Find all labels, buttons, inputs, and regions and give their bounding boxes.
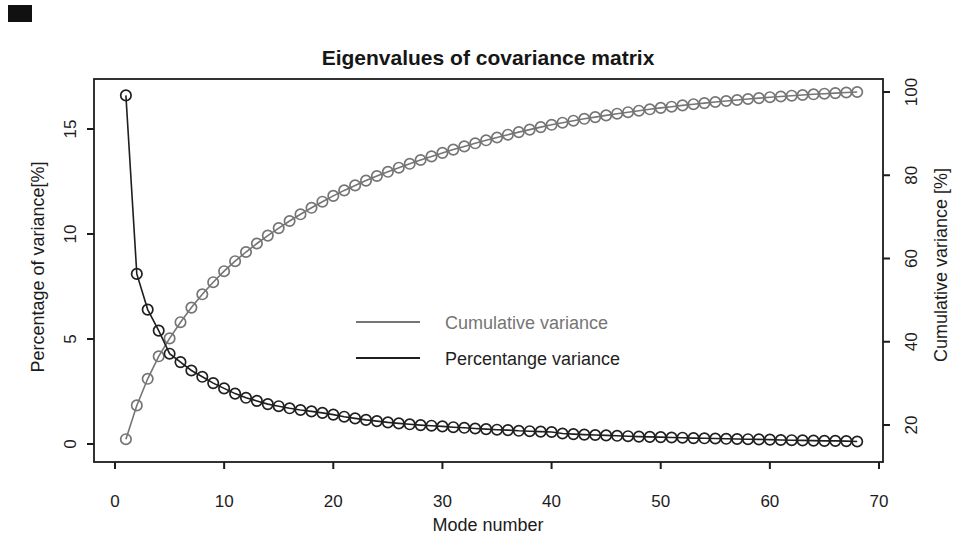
legend-label-percentage: Percentange variance bbox=[445, 349, 620, 369]
figure-canvas: Eigenvalues of covariance matrix 0102030… bbox=[0, 0, 978, 557]
x-tick-label: 0 bbox=[110, 492, 119, 511]
y-left-tick-label: 15 bbox=[61, 120, 80, 139]
y-left-tick-label: 0 bbox=[61, 439, 80, 448]
x-tick-label: 70 bbox=[870, 492, 889, 511]
x-tick-label: 60 bbox=[760, 492, 779, 511]
x-tick-label: 30 bbox=[433, 492, 452, 511]
series-percentange-variance-line bbox=[126, 95, 857, 441]
eigenvalue-chart: Eigenvalues of covariance matrix 0102030… bbox=[0, 0, 978, 557]
legend: Cumulative variance Percentange variance bbox=[356, 313, 620, 369]
legend-label-cumulative: Cumulative variance bbox=[445, 313, 608, 333]
y-right-axis-label: Cumulative variance [%] bbox=[931, 168, 951, 362]
y-right-tick-label: 80 bbox=[902, 166, 921, 185]
y-left-tick-label: 5 bbox=[61, 334, 80, 343]
scan-artifact-mark bbox=[8, 5, 32, 22]
y-right-tick-label: 60 bbox=[902, 249, 921, 268]
y-left-tick-label: 10 bbox=[61, 225, 80, 244]
y-right-tick-label: 100 bbox=[902, 78, 921, 106]
x-tick-label: 10 bbox=[215, 492, 234, 511]
y-right-tick-label: 20 bbox=[902, 416, 921, 435]
series-percentange-variance-markers bbox=[121, 90, 863, 446]
x-tick-label: 40 bbox=[542, 492, 561, 511]
x-axis-label: Mode number bbox=[432, 515, 543, 535]
x-tick-label: 50 bbox=[651, 492, 670, 511]
chart-title: Eigenvalues of covariance matrix bbox=[322, 46, 655, 69]
series-cumulative-variance-markers bbox=[121, 87, 863, 445]
y-right-tick-label: 40 bbox=[902, 332, 921, 351]
x-tick-label: 20 bbox=[324, 492, 343, 511]
series-layer bbox=[121, 87, 863, 447]
y-left-axis-label: Percentage of variance[%] bbox=[28, 161, 48, 372]
